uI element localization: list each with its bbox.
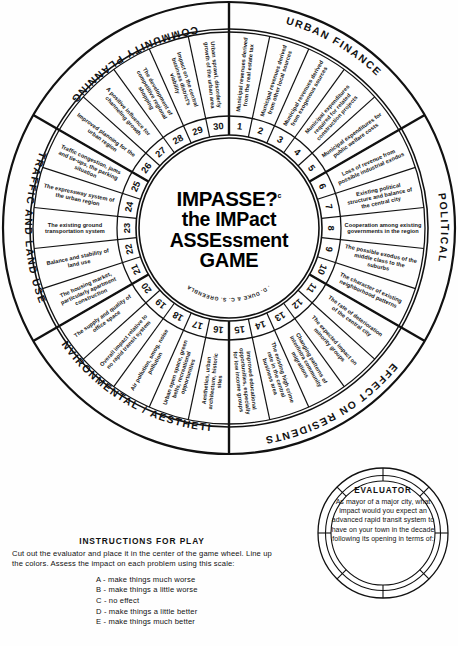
segment-number: 10 <box>315 263 329 277</box>
segment-label: The possible exodus of themiddle class t… <box>344 243 417 272</box>
segment-number: 21 <box>128 263 142 277</box>
scale-text: - no effect <box>102 596 140 605</box>
segment-label: Loss of revenue frompossible industrial … <box>337 148 405 186</box>
segment-divider <box>321 238 423 249</box>
segment-label-line: Cooperation among existing <box>345 222 422 228</box>
segment-number: 22 <box>122 243 135 255</box>
segment-number: 15 <box>234 324 246 336</box>
wheel-item-labels: Municipal revenues derivedfrom the real … <box>43 37 422 416</box>
evaluator-body: As mayor of a major city, what impact wo… <box>331 497 435 543</box>
sector-label: POLITICAL <box>436 192 450 264</box>
segment-number: 25 <box>128 179 142 193</box>
wheel-ring <box>136 135 322 321</box>
segment-number: 11 <box>305 281 320 295</box>
segment-divider <box>34 238 136 249</box>
segment-label-line: The existing ground <box>48 222 103 228</box>
segment-label: Balance and stability ofland use <box>46 247 110 268</box>
segment-number: 14 <box>253 319 267 333</box>
segment-label-line: sites <box>216 375 223 389</box>
segment-label: The development ofcompetitive regionalsh… <box>136 67 174 121</box>
scale-text: - make things a little worse <box>101 585 197 594</box>
segment-label: Cooperation among existinggovernments in… <box>345 222 422 235</box>
segment-label: Municipal revenues derivedfrom the real … <box>235 37 255 112</box>
segment-number: 18 <box>170 309 185 324</box>
segment-label: Aesthetics, urbanarchitecture, historics… <box>201 353 223 410</box>
evaluator-heading: EVALUATOR <box>331 486 435 495</box>
segment-label: The existing groundtransportation system <box>45 222 105 235</box>
segment-number: 5 <box>306 162 318 173</box>
segment-number: 28 <box>170 132 185 147</box>
segment-label: The character of existingneighborhood pa… <box>339 271 404 309</box>
scale-row: E - make things much better <box>96 617 276 628</box>
segment-number: 3 <box>275 133 285 145</box>
segment-number: 1 <box>237 120 243 131</box>
segment-number: 19 <box>153 297 168 312</box>
scale-row: D - make things a little better <box>96 607 276 618</box>
instructions-heading: INSTRUCTIONS FOR PLAY <box>8 536 276 546</box>
segment-label: The housing market,particularly apartmen… <box>59 270 117 306</box>
scale-text: - make things much worse <box>101 575 196 584</box>
segment-number: 9 <box>323 246 335 253</box>
instructions-body: Cut out the evaluator and place it in th… <box>12 549 272 570</box>
segment-number: 24 <box>122 200 135 213</box>
scale-row: A - make things much worse <box>96 575 276 586</box>
segment-number: 8 <box>326 225 337 230</box>
segment-number: 6 <box>317 182 329 191</box>
wheel-svg: Municipal revenues derivedfrom the real … <box>0 0 458 460</box>
segment-number: 12 <box>290 297 305 312</box>
segment-label: The expressway system ofthe urban region <box>43 182 115 207</box>
scale-row: C - no effect <box>96 596 276 607</box>
segment-number: 27 <box>153 144 168 159</box>
segment-number: 26 <box>139 160 154 175</box>
segment-label: Improved educationalopportunities, espec… <box>232 348 257 416</box>
segment-number: 30 <box>213 120 225 132</box>
segment-label: The existing high crimerate in the centr… <box>262 341 296 403</box>
segment-number: 29 <box>191 124 204 138</box>
segment-label-line: governments in the region <box>347 228 419 234</box>
segment-number: 4 <box>292 146 304 158</box>
segment-label: Municipal revenues derivedfrom other loc… <box>259 44 293 117</box>
segment-number: 2 <box>256 124 264 136</box>
segment-number: 7 <box>323 203 335 210</box>
wheel-ring <box>139 138 319 318</box>
impact-scale-list: A - make things much worseB - make thing… <box>96 575 276 628</box>
segment-number: 20 <box>139 281 154 296</box>
wheel-numbers: 1234567891011121314151617181920212223242… <box>121 120 337 336</box>
segment-number: 23 <box>121 223 132 233</box>
evaluator-card[interactable]: EVALUATOR As mayor of a major city, what… <box>316 466 450 600</box>
segment-label: Urban sprawl, disorderlygrowth of the ur… <box>203 41 223 110</box>
segment-label: Urban open space, greenbelts, recreation… <box>162 339 196 406</box>
segment-divider <box>321 208 423 219</box>
wheel-ring <box>117 116 341 340</box>
game-wheel: Municipal revenues derivedfrom the real … <box>0 0 458 460</box>
segment-number: 13 <box>273 309 288 324</box>
segment-label: Impact on the centralbusiness district's… <box>169 51 200 108</box>
scale-text: - make things much better <box>101 617 195 626</box>
segment-number: 17 <box>191 319 204 333</box>
segment-label-line: transportation system <box>45 228 105 234</box>
instructions-block: INSTRUCTIONS FOR PLAY Cut out the evalua… <box>8 536 276 628</box>
evaluator-text: EVALUATOR As mayor of a major city, what… <box>331 486 435 543</box>
scale-text: - make things a little better <box>102 607 198 616</box>
scale-row: B - make things a little worse <box>96 585 276 596</box>
segment-number: 16 <box>213 324 225 336</box>
segment-divider <box>34 208 136 219</box>
